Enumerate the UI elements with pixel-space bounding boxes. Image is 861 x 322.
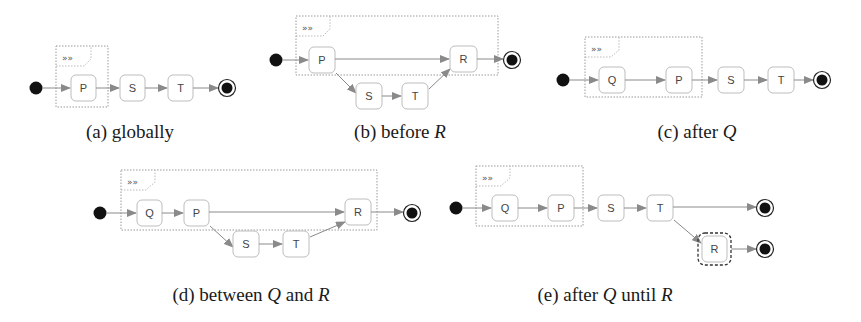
- final-node: [760, 244, 771, 255]
- edge: [210, 226, 233, 247]
- repeat-icon: »»: [127, 177, 138, 187]
- caption-c: (c) after Q: [657, 121, 736, 143]
- final-node: [760, 203, 771, 214]
- edge: [429, 69, 450, 89]
- state-label: S: [242, 238, 249, 250]
- state-label: S: [129, 82, 136, 94]
- panel-d-between-q-and-r: »» Q P S T R (d) between Q and R: [94, 170, 421, 306]
- state-label: T: [293, 238, 300, 250]
- edge: [674, 220, 701, 243]
- final-node: [817, 75, 828, 86]
- initial-node: [450, 202, 463, 215]
- state-label: T: [177, 82, 184, 94]
- initial-node: [30, 82, 43, 95]
- state-label: T: [657, 202, 664, 214]
- state-label: R: [460, 53, 468, 65]
- panel-e-after-q-until-r: »» Q P S T R (e) after Q until R: [450, 166, 774, 306]
- repeat-icon: »»: [302, 23, 313, 33]
- final-node: [222, 83, 233, 94]
- caption-b: (b) before R: [354, 121, 446, 143]
- caption-a: (a) globally: [86, 121, 175, 143]
- state-label: P: [80, 82, 87, 94]
- state-label: P: [675, 74, 682, 86]
- state-label: P: [193, 207, 200, 219]
- state-label: S: [365, 90, 372, 102]
- state-label: Q: [501, 202, 510, 214]
- state-label: S: [607, 202, 614, 214]
- initial-node: [270, 54, 283, 67]
- repeat-icon: »»: [62, 53, 73, 63]
- state-label: P: [318, 54, 325, 66]
- panel-c-after-q: »» Q P S T (c) after Q: [557, 37, 831, 143]
- repeat-icon: »»: [591, 44, 602, 54]
- initial-node: [557, 74, 570, 87]
- final-node: [507, 55, 518, 66]
- edge: [310, 222, 345, 237]
- panel-a-globally: »» P S T (a) globally: [30, 46, 236, 143]
- repeat-icon: »»: [482, 173, 493, 183]
- panel-b-before-r: »» P S T R (b) before R: [270, 16, 521, 143]
- state-label: P: [557, 202, 564, 214]
- caption-d: (d) between Q and R: [172, 284, 330, 306]
- state-label: Q: [145, 207, 154, 219]
- state-label: Q: [608, 74, 617, 86]
- pattern-diagrams: »» P S T (a) globally »» P S T R: [0, 0, 861, 322]
- caption-e: (e) after Q until R: [537, 284, 672, 306]
- final-node: [407, 208, 418, 219]
- state-label: R: [711, 243, 719, 255]
- edge: [336, 73, 356, 93]
- state-label: T: [778, 74, 785, 86]
- state-label: T: [412, 90, 419, 102]
- state-label: S: [727, 74, 734, 86]
- state-label: R: [354, 206, 362, 218]
- initial-node: [94, 207, 107, 220]
